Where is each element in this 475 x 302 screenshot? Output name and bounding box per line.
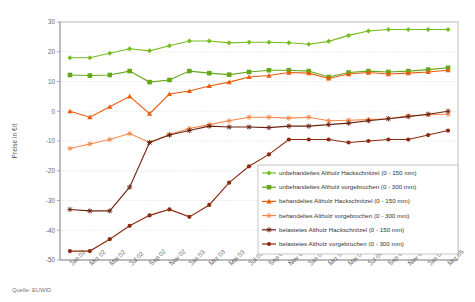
data-point	[167, 78, 172, 83]
data-point	[127, 185, 132, 190]
data-point	[127, 69, 132, 74]
legend-label: behandeltes Altholz vorgebrochen (0 - 30…	[279, 212, 409, 219]
data-point	[246, 124, 251, 129]
y-tick-label: -40	[46, 227, 56, 234]
series-line	[70, 29, 448, 57]
legend-item-3[interactable]: behandeltes Altholz Hackschnitzel (0 - 1…	[262, 197, 410, 204]
data-point	[207, 71, 212, 76]
legend-star-marker	[266, 213, 271, 218]
data-point	[127, 131, 132, 136]
data-point	[187, 215, 191, 219]
data-point	[306, 115, 311, 120]
x-tick-label: Jul 02	[128, 250, 145, 267]
data-point	[67, 55, 72, 60]
data-point	[406, 137, 410, 141]
x-tick-label: Mrz 03	[208, 248, 227, 267]
data-point	[426, 112, 431, 117]
data-point	[167, 207, 171, 211]
data-point	[266, 125, 271, 130]
data-point	[307, 137, 311, 141]
data-point	[286, 124, 291, 129]
source-note: Quelle: EUWID	[12, 287, 51, 293]
y-tick-label: -50	[46, 256, 56, 263]
x-tick-label: Sep 02	[148, 247, 168, 267]
data-point	[167, 132, 172, 137]
data-point	[306, 124, 311, 129]
data-point	[327, 137, 331, 141]
y-tick-label: -30	[46, 197, 56, 204]
data-point	[88, 249, 92, 253]
data-point	[286, 40, 291, 45]
data-point	[286, 115, 291, 120]
legend-label: belastetes Altholz Hackschnitzel (0 - 15…	[279, 226, 404, 233]
x-tick-label: Jan 03	[188, 248, 207, 267]
data-point	[68, 73, 73, 78]
data-point	[426, 133, 430, 137]
data-point	[187, 39, 192, 44]
data-point	[446, 128, 450, 132]
legend-item-5[interactable]: belastetes Altholz Hackschnitzel (0 - 15…	[262, 226, 404, 233]
data-point	[406, 114, 411, 119]
data-point	[147, 80, 152, 85]
data-point	[266, 115, 271, 120]
y-tick-label: 0	[51, 108, 55, 115]
data-point	[107, 137, 112, 142]
data-point	[147, 213, 151, 217]
series-line	[70, 114, 448, 148]
data-point	[366, 139, 370, 143]
data-point	[326, 39, 331, 44]
series-line	[70, 68, 448, 82]
data-point	[446, 27, 451, 32]
data-point	[267, 68, 272, 73]
data-point	[147, 140, 152, 145]
data-point	[406, 27, 411, 32]
data-point	[366, 28, 371, 33]
data-point	[227, 181, 231, 185]
price-development-line-chart: 3020100-10-20-30-40-50Preise in €/tJan 0…	[0, 0, 475, 302]
legend-item-1[interactable]: unbehandeltes Altholz Hackschnitzel (0 -…	[262, 169, 417, 176]
data-point	[87, 141, 92, 146]
legend-item-2[interactable]: unbehandeltes Altholz vorgebrochen (0 - …	[262, 183, 416, 190]
legend-label: unbehandeltes Altholz vorgebrochen (0 - …	[279, 183, 416, 190]
data-point	[147, 48, 152, 53]
data-point	[267, 152, 271, 156]
data-point	[207, 124, 212, 129]
data-point	[306, 42, 311, 47]
data-point	[207, 39, 212, 44]
data-point	[88, 73, 93, 78]
data-point	[127, 46, 132, 51]
data-point	[247, 70, 252, 75]
legend-item-4[interactable]: behandeltes Altholz vorgebrochen (0 - 30…	[262, 212, 409, 219]
data-point	[227, 118, 232, 123]
data-point	[287, 137, 291, 141]
data-point	[266, 40, 271, 45]
x-tick-label: Mai 02	[108, 248, 127, 267]
data-point	[386, 27, 391, 32]
data-point	[128, 224, 132, 228]
legend-square-marker	[267, 185, 272, 190]
data-point	[386, 137, 390, 141]
legend-label: unbehandeltes Altholz Hackschnitzel (0 -…	[279, 169, 417, 176]
data-point	[246, 115, 251, 120]
legend-star-marker	[266, 227, 271, 232]
data-point	[107, 104, 112, 109]
legend-item-6[interactable]: belastetes Altholz vorgebrochen (0 - 300…	[262, 240, 404, 247]
data-point	[445, 109, 450, 114]
data-point	[346, 121, 351, 126]
data-point	[167, 43, 172, 48]
data-point	[107, 208, 112, 213]
data-point	[67, 207, 72, 212]
data-point	[227, 40, 232, 45]
data-point	[227, 72, 232, 77]
data-point	[68, 249, 72, 253]
series-line	[70, 70, 448, 117]
y-tick-label: 30	[48, 18, 56, 25]
data-point	[207, 203, 211, 207]
data-point	[386, 116, 391, 121]
legend-circle-marker	[267, 242, 271, 246]
data-point	[227, 124, 232, 129]
data-point	[87, 208, 92, 213]
y-tick-label: -20	[46, 167, 56, 174]
data-point	[247, 40, 252, 45]
x-tick-label: Nov 02	[168, 247, 187, 266]
